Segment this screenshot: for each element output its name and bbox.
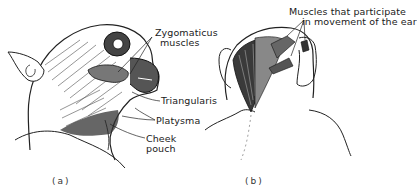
label-platysma: Platysma <box>156 116 200 126</box>
label-ear-muscles-line2: in movement of the ear <box>289 17 417 27</box>
caption-b: (b) <box>245 176 264 186</box>
label-cheek-pouch-line2: pouch <box>146 144 176 154</box>
label-cheek-pouch: Cheek pouch <box>146 134 176 154</box>
monkey-head-rear-illustration <box>205 0 411 195</box>
caption-a: (a) <box>52 176 71 186</box>
panel-b-ear-muscles: Muscles that participate in movement of … <box>205 0 411 195</box>
label-ear-muscles: Muscles that participate in movement of … <box>289 7 417 27</box>
panel-a-facial-muscles: Zygomaticus muscles Triangularis Platysm… <box>0 0 205 195</box>
